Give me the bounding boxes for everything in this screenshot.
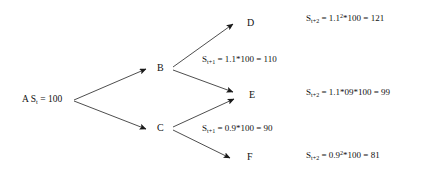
node-label-a: A St = 100 [22, 95, 62, 105]
edge-label-down-subscript: t+1 [207, 128, 215, 134]
node-label-f: F [247, 152, 253, 162]
formula-down-down: St+2 = 0.92*100 = 81 [306, 151, 380, 160]
edge-a-to-b [74, 69, 146, 100]
edge-label-up-subscript: t+1 [207, 59, 215, 65]
formula-up-up: St+2 = 1.12*100 = 121 [306, 14, 384, 23]
edge-label-down-step: St+1 = 0.9*100 = 90 [202, 124, 273, 133]
node-label-d: D [247, 18, 254, 28]
formula-mixed: St+2 = 1.1*09*100 = 99 [306, 88, 390, 97]
node-label-c: C [157, 123, 164, 133]
node-label-b: B [157, 63, 164, 73]
formula-mixed-subscript: t+2 [311, 92, 319, 98]
formula-down-down-subscript: t+2 [311, 155, 319, 161]
node-label-e: E [249, 90, 255, 100]
edge-c-to-f [173, 130, 230, 158]
edge-label-up-step: St+1 = 1.1*100 = 110 [202, 55, 277, 64]
edge-b-to-e [173, 70, 233, 92]
formula-up-up-subscript: t+2 [311, 18, 319, 24]
binomial-tree-diagram: A St = 100 B C D E F St+1 = 1.1*100 = 11… [0, 0, 436, 180]
edge-a-to-c [74, 101, 146, 129]
